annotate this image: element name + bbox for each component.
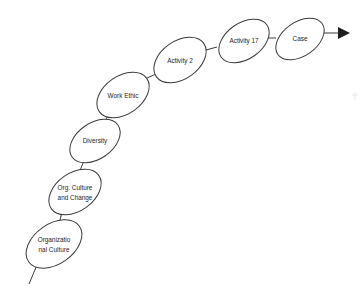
node-organizational-culture-shape xyxy=(17,210,91,278)
node-org-culture-and-change-label-line2: and Change xyxy=(58,194,93,202)
node-org-culture-and-change[interactable]: Org. Culture and Change xyxy=(40,160,109,224)
node-organizational-culture[interactable]: Organizatio nal Culture xyxy=(17,210,91,278)
node-activity-17[interactable]: Activity 17 xyxy=(211,10,278,72)
node-work-ethic[interactable]: Work Ethic xyxy=(88,63,157,127)
node-case-label: Case xyxy=(293,35,308,42)
node-case[interactable]: Case xyxy=(268,10,332,69)
exit-arrow-head xyxy=(338,27,350,39)
flow-chain-diagram: Organizatio nal Culture Org. Culture and… xyxy=(0,0,362,296)
node-org-culture-and-change-shape xyxy=(40,160,109,224)
node-work-ethic-label: Work Ethic xyxy=(108,92,140,99)
node-organizational-culture-label-line1: Organizatio xyxy=(38,236,71,244)
exit-arrow-icon xyxy=(324,27,350,39)
node-org-culture-and-change-label-line1: Org. Culture xyxy=(58,184,93,192)
node-diversity-label: Diversity xyxy=(83,137,108,145)
node-activity-17-label: Activity 17 xyxy=(229,37,259,45)
diagram-canvas: Organizatio nal Culture Org. Culture and… xyxy=(0,0,362,296)
scan-artifact xyxy=(352,92,358,100)
node-organizational-culture-label-line2: nal Culture xyxy=(39,246,70,253)
node-activity-2[interactable]: Activity 2 xyxy=(145,28,214,92)
node-activity-2-label: Activity 2 xyxy=(167,57,193,65)
connector-activity-2-to-activity-17 xyxy=(206,47,217,50)
node-diversity[interactable]: Diversity xyxy=(62,110,129,172)
entry-tail-line xyxy=(29,265,37,284)
